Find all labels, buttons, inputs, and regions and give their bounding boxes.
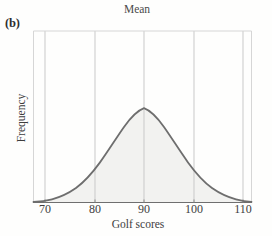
x-tick-label-100: 100: [174, 203, 214, 216]
curve-fill-area: [34, 108, 252, 202]
x-tick-label-80: 80: [75, 203, 115, 216]
gridline-group: [45, 31, 243, 202]
distribution-curve-svg: [0, 0, 272, 236]
x-tick-label-70: 70: [25, 203, 65, 216]
y-axis-title: Frequency: [15, 78, 29, 158]
figure-panel-b: (b) Mean: [0, 0, 272, 236]
x-axis-title: Golf scores: [0, 218, 272, 231]
x-axis-title-text: Golf scores: [112, 218, 165, 230]
x-tick-label-110: 110: [223, 203, 263, 216]
x-tick-label-90: 90: [124, 203, 164, 216]
y-axis-title-text: Frequency: [16, 94, 28, 143]
plot-area: 70 80 90 100 110: [0, 0, 272, 236]
